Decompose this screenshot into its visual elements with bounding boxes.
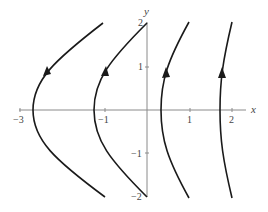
x-tick-label-1: 1 xyxy=(187,114,192,125)
arrow-up-icon xyxy=(43,66,51,76)
y-tick-label-1: 1 xyxy=(138,61,143,72)
y-tick-label-2: 2 xyxy=(138,17,143,28)
x-axis-label: x xyxy=(250,103,256,115)
y-axis-label: y xyxy=(143,5,149,17)
phase-portrait-diagram: −3 −1 1 2 2 1 −1 −2 x y xyxy=(0,0,268,212)
x-tick-label-neg3: −3 xyxy=(13,114,24,125)
arrow-up-icon xyxy=(162,67,170,78)
y-tick-label-neg1: −1 xyxy=(131,148,142,159)
arrow-up-icon xyxy=(218,67,226,78)
y-tick-label-neg2: −2 xyxy=(131,191,142,202)
diagram-canvas: −3 −1 1 2 2 1 −1 −2 x y xyxy=(0,0,268,212)
x-tick-label-2: 2 xyxy=(229,114,234,125)
x-tick-label-neg1: −1 xyxy=(98,114,109,125)
